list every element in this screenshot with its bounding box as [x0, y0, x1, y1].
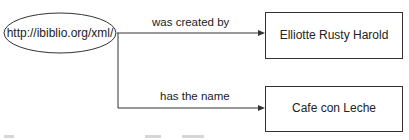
clipped-caption-fragment [4, 135, 14, 138]
author-node-label: Elliotte Rusty Harold [266, 28, 402, 42]
resource-node-label: http://ibiblio.org/xml/ [4, 26, 116, 40]
name-node-label: Cafe con Leche [266, 101, 402, 115]
clipped-caption-fragment [182, 135, 204, 138]
clipped-caption-fragment [145, 135, 161, 138]
arrowhead-icon [258, 105, 265, 111]
arrowhead-icon [258, 30, 265, 36]
edge-label-created-by: was created by [152, 16, 229, 28]
edge-label-has-name: has the name [160, 90, 230, 102]
